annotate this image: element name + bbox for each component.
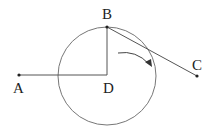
segment-BC [107,27,197,76]
arrowhead-icon [145,59,152,67]
geometry-diagram: A B C D [0,0,210,129]
label-A: A [13,80,24,96]
point-B [105,25,108,28]
rotation-arrow-icon [118,52,149,64]
label-D: D [103,80,114,96]
point-A [17,73,20,76]
point-C [195,74,198,77]
label-B: B [102,6,112,22]
label-C: C [192,57,202,73]
